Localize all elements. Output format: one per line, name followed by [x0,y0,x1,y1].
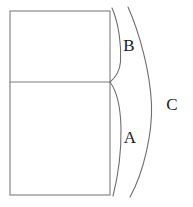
region-label-b: B [123,37,134,54]
rectangle-outline [10,11,110,195]
region-label-c: C [166,96,177,113]
diagram-vector-layer [0,0,193,207]
curve-a-path [110,82,121,196]
diagram-canvas: B A C [0,0,193,207]
region-label-a: A [124,129,136,146]
curve-b-path [110,8,121,82]
